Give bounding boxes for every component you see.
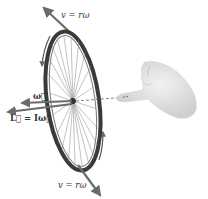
wheel-diagram — [0, 0, 208, 199]
right-hand-icon — [117, 62, 197, 119]
velocity-label-bottom: v = rω — [58, 181, 86, 190]
velocity-label-top: v = rω — [61, 11, 89, 20]
angular-momentum-label: L⃗ = Iω⃗ — [10, 114, 51, 123]
omega-arrow — [22, 101, 72, 103]
omega-label: ω⃗ — [33, 92, 46, 101]
